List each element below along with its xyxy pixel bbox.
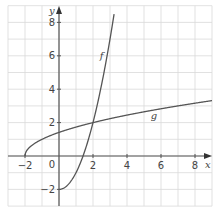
svg-text:8: 8: [49, 17, 55, 28]
svg-text:−2: −2: [40, 184, 55, 195]
curve-g: [25, 101, 212, 156]
y-axis-arrow-icon: [56, 6, 62, 14]
curve-f: [59, 14, 114, 189]
svg-text:4: 4: [124, 160, 130, 171]
svg-text:2: 2: [90, 160, 96, 171]
svg-text:4: 4: [49, 84, 55, 95]
svg-text:2: 2: [49, 117, 55, 128]
function-graph: −22468−22468 x y 0 fg: [0, 0, 216, 217]
svg-text:6: 6: [158, 160, 164, 171]
y-axis-label: y: [48, 5, 55, 16]
curve-label-g: g: [151, 110, 157, 121]
svg-text:8: 8: [192, 160, 198, 171]
origin-label: 0: [49, 159, 55, 170]
x-axis-label: x: [205, 159, 211, 170]
svg-text:−2: −2: [18, 160, 33, 171]
svg-text:6: 6: [49, 50, 55, 61]
